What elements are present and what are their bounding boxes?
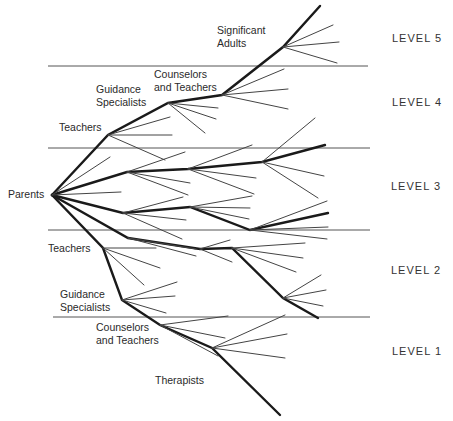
twig	[188, 169, 254, 194]
twig	[168, 103, 205, 133]
twig	[160, 325, 225, 338]
twig	[190, 196, 252, 207]
twig	[262, 162, 318, 198]
node-label-significant-adults: Significant Adults	[217, 24, 265, 50]
twig	[232, 248, 303, 258]
node-label-therapists: Therapists	[155, 374, 204, 387]
twig	[123, 213, 186, 220]
upper-main-branch	[52, 6, 320, 195]
node-label-guidance-lower: Guidance Specialists	[60, 288, 110, 314]
twig	[188, 169, 256, 178]
mid-branch-b	[52, 195, 328, 230]
twig	[127, 172, 190, 183]
node-label-teachers-upper: Teachers	[59, 121, 102, 134]
twig	[250, 230, 327, 239]
twig	[200, 249, 232, 262]
twig	[160, 325, 218, 356]
twig	[127, 172, 188, 195]
twig	[122, 296, 175, 300]
level-label-2: LEVEL 2	[391, 264, 441, 276]
twig	[232, 248, 296, 272]
twig	[122, 300, 166, 313]
twig	[123, 213, 182, 239]
twig	[190, 207, 250, 208]
level-label-1: LEVEL 1	[392, 345, 442, 357]
level-label-3: LEVEL 3	[391, 180, 441, 192]
support-tree-diagram	[0, 0, 453, 421]
twig	[222, 95, 288, 109]
level-label-4: LEVEL 4	[392, 96, 442, 108]
level-label-5: LEVEL 5	[392, 32, 442, 44]
node-label-counselors-lower: Counselors and Teachers	[96, 321, 159, 347]
node-label-counselors-upper: Counselors and Teachers	[154, 68, 217, 94]
node-label-parents: Parents	[8, 188, 44, 201]
twig	[222, 89, 288, 95]
twig	[103, 248, 160, 268]
twig	[222, 69, 284, 95]
node-label-teachers-lower: Teachers	[48, 242, 91, 255]
twig	[122, 282, 177, 300]
node-label-guidance-upper: Guidance Specialists	[96, 83, 146, 109]
twig	[232, 243, 305, 248]
twig	[283, 42, 339, 47]
twig	[262, 162, 324, 176]
twig	[283, 47, 337, 63]
twig	[212, 315, 285, 348]
twig	[212, 348, 285, 358]
twig	[212, 334, 287, 348]
